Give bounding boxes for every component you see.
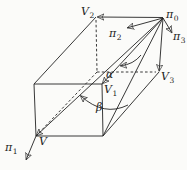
label-v3: V3 — [161, 71, 174, 82]
label-pi3-sub: 3 — [181, 36, 186, 45]
diagram-canvas — [0, 0, 187, 170]
vector-pi1-extension-arrow — [26, 136, 36, 160]
label-alpha-base: α — [106, 68, 113, 80]
label-pi3: π3 — [173, 31, 185, 42]
label-v3-sub: 3 — [169, 76, 174, 85]
label-alpha: α — [106, 69, 113, 80]
label-pi1-base: π — [5, 141, 12, 154]
vector-v2-arrow — [98, 17, 164, 18]
label-pi1: π1 — [5, 142, 17, 153]
label-pi2: π2 — [109, 28, 121, 39]
label-v1-sub: 1 — [112, 89, 117, 98]
label-pi2-base: π — [109, 27, 116, 40]
label-v3-base: V — [161, 70, 169, 83]
vector-v3-arrow — [159, 18, 163, 71]
label-pi3-base: π — [173, 30, 180, 43]
label-v-base: V — [39, 135, 47, 148]
label-beta: β — [96, 102, 102, 113]
label-pi2-sub: 2 — [117, 33, 122, 42]
label-beta-base: β — [96, 101, 102, 114]
label-pi1-sub: 1 — [13, 147, 18, 156]
label-pi0-sub: 0 — [174, 14, 179, 23]
label-v2-base: V — [81, 5, 89, 18]
label-v: V — [39, 136, 47, 147]
edge-top-left — [34, 17, 96, 84]
label-v2-sub: 2 — [89, 11, 94, 20]
hidden-edge-to-front — [36, 72, 97, 136]
label-v1: V1 — [104, 84, 117, 95]
label-v2: V2 — [81, 6, 94, 17]
beta-angle-arc — [81, 96, 128, 110]
label-pi0: π0 — [166, 9, 178, 20]
label-pi0-base: π — [166, 8, 173, 21]
hidden-edge-vertical — [96, 20, 97, 72]
label-v1-base: V — [104, 83, 112, 96]
vector-v-diagonal-arrow — [36, 18, 163, 136]
vector-parallelepiped-diagram: π0 V2 π2 π3 V3 V1 α β V π1 — [0, 0, 187, 170]
